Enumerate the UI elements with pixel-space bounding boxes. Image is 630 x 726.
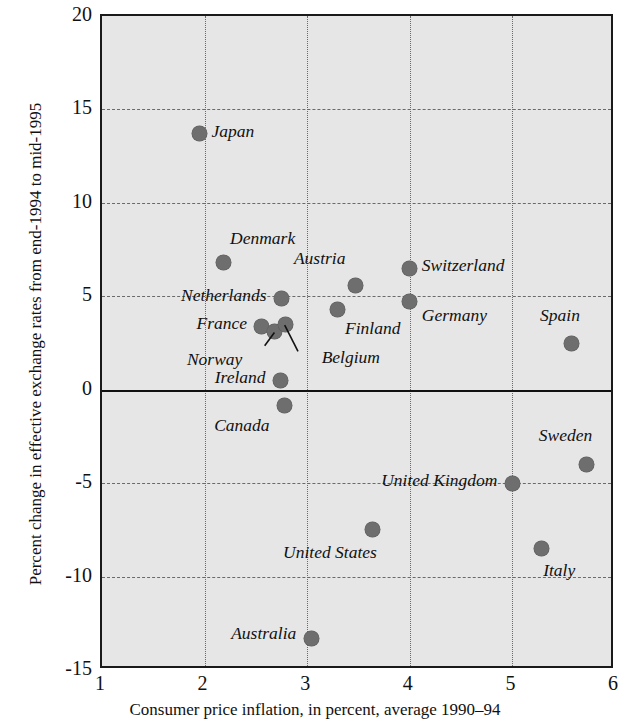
y-tick-label: 0 [40,376,92,399]
data-point-marker [274,291,289,306]
data-point-marker [330,302,345,317]
y-tick-label: -5 [40,470,92,493]
point-label-united-states: United States [283,544,377,562]
y-tick-label: -15 [40,657,92,680]
point-label-norway: Norway [187,351,242,369]
data-point-marker [192,126,207,141]
x-tick-label: 6 [608,672,618,695]
data-point-marker [402,261,417,276]
gridline-horizontal [102,109,611,110]
data-point-marker [348,278,363,293]
data-point-marker [505,476,520,491]
data-point-marker [564,336,579,351]
gridline-horizontal [102,577,611,578]
gridline-vertical [205,16,206,666]
data-point-marker [216,255,231,270]
point-label-united-kingdom: United Kingdom [381,472,497,490]
y-tick-label: 5 [40,283,92,306]
y-tick-label: 15 [40,96,92,119]
point-label-switzerland: Switzerland [422,258,505,276]
point-label-denmark: Denmark [230,230,295,248]
x-tick-label: 5 [505,672,515,695]
data-point-marker [273,373,288,388]
x-tick-label: 4 [403,672,413,695]
point-label-canada: Canada [214,417,269,435]
y-tick-label: 20 [40,3,92,26]
point-label-germany: Germany [422,307,487,325]
point-label-sweden: Sweden [539,428,592,446]
zero-line [102,390,611,392]
point-label-netherlands: Netherlands [181,287,267,305]
data-point-marker [534,541,549,556]
point-label-spain: Spain [540,307,580,325]
data-point-marker [365,522,380,537]
data-point-marker [402,294,417,309]
y-axis-title: Percent change in effective exchange rat… [26,34,46,654]
gridline-vertical [307,16,308,666]
y-tick-label: 10 [40,189,92,212]
data-point-marker [304,631,319,646]
point-label-japan: Japan [211,123,254,141]
x-axis-title: Consumer price inflation, in percent, av… [0,700,630,720]
point-label-france: France [196,315,247,333]
plot-area [100,14,613,668]
point-label-ireland: Ireland [215,370,266,388]
scatter-chart: JapanDenmarkNetherlandsFranceNorwayBelgi… [0,0,630,726]
x-tick-label: 1 [95,672,105,695]
x-tick-label: 2 [198,672,208,695]
data-point-marker [277,398,292,413]
point-label-italy: Italy [543,562,575,580]
gridline-horizontal [102,483,611,484]
y-tick-label: -10 [40,563,92,586]
x-tick-label: 3 [300,672,310,695]
point-label-belgium: Belgium [322,350,380,368]
point-label-austria: Austria [294,250,346,268]
gridline-vertical [512,16,513,666]
point-label-australia: Australia [231,625,296,643]
gridline-vertical [410,16,411,666]
gridline-horizontal [102,296,611,297]
point-label-finland: Finland [345,321,400,339]
gridline-horizontal [102,203,611,204]
data-point-marker [579,457,594,472]
data-point-marker [278,317,293,332]
